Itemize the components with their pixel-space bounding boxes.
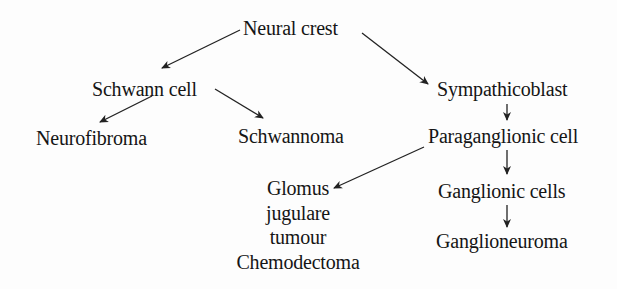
glomus-line-3: tumour <box>230 225 366 250</box>
arrow-schwann-cell-to-schwannoma <box>215 89 263 118</box>
diagram-canvas: Neural crest Schwann cell Sympathicoblas… <box>0 0 617 289</box>
glomus-line-2: jugulare <box>230 201 366 226</box>
glomus-line-1: Glomus <box>230 176 366 201</box>
glomus-line-4: Chemodectoma <box>230 250 366 275</box>
arrow-neural-crest-to-schwann-cell <box>162 30 240 68</box>
node-neural-crest: Neural crest <box>243 17 338 39</box>
node-ganglionic-cells: Ganglionic cells <box>438 180 565 202</box>
node-sympathicoblast: Sympathicoblast <box>437 78 567 100</box>
node-ganglioneuroma: Ganglioneuroma <box>436 230 568 252</box>
node-neurofibroma: Neurofibroma <box>36 127 147 149</box>
node-paraganglionic-cell: Paraganglionic cell <box>428 125 578 147</box>
node-schwann-cell: Schwann cell <box>92 78 197 100</box>
arrow-neural-crest-to-sympathicoblast <box>362 33 428 84</box>
node-glomus-jugulare-tumour: Glomus jugulare tumour Chemodectoma <box>230 176 366 274</box>
node-schwannoma: Schwannoma <box>238 125 344 147</box>
